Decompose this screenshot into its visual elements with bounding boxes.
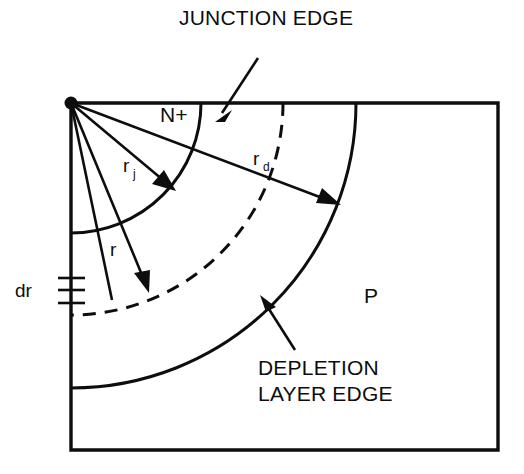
junction-edge-callout-arrow (215, 58, 258, 122)
radius-rd-label: r d (253, 148, 270, 174)
radius-rd-base: r (253, 148, 260, 169)
radius-r-ray (71, 103, 150, 293)
radius-rj-label: r j (123, 155, 136, 181)
radius-rj-base: r (123, 155, 130, 176)
depletion-layer-edge-label-line1: DEPLETION (258, 356, 379, 379)
depletion-layer-edge-callout-arrow (260, 295, 295, 350)
junction-diagram: JUNCTION EDGE N+ P (0, 0, 524, 474)
differential-dr-label: dr (15, 280, 33, 301)
depletion-layer-edge-label-line2: LAYER EDGE (258, 382, 393, 405)
origin-point (65, 97, 78, 110)
radius-r-label: r (110, 239, 117, 260)
radius-rd-ray (71, 103, 341, 205)
radius-r-arc (71, 103, 283, 315)
region-n-plus-label: N+ (160, 103, 187, 126)
junction-edge-label: JUNCTION EDGE (179, 6, 353, 29)
radius-rd-subscript: d (263, 160, 270, 174)
radius-rj-subscript: j (132, 167, 136, 181)
region-p-label: P (364, 284, 378, 307)
